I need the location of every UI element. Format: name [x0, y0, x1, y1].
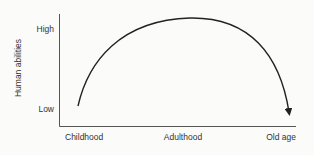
y-axis-label: Human abilities [13, 39, 23, 97]
y-tick-low: Low [38, 104, 54, 114]
x-tick-adulthood: Adulthood [164, 132, 203, 142]
x-tick-childhood: Childhood [65, 132, 104, 142]
abilities-curve [78, 18, 289, 112]
lifespan-abilities-chart: High Low Human abilities Childhood Adult… [0, 0, 314, 155]
x-tick-old-age: Old age [266, 132, 296, 142]
y-tick-high: High [37, 24, 55, 34]
